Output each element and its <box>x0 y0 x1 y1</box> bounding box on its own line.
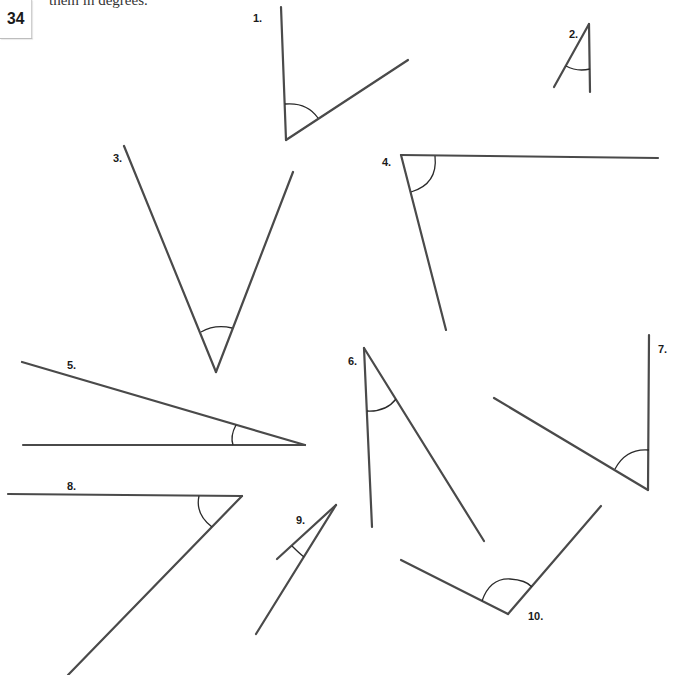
angle-5: 5. <box>22 359 305 445</box>
angle-1-ray-b <box>286 60 408 140</box>
angle-4-arc <box>411 156 435 192</box>
angle-6-ray-a <box>364 348 372 527</box>
angle-4-label: 4. <box>382 156 391 168</box>
angle-8-label: 8. <box>67 480 76 492</box>
angle-6-label: 6. <box>348 355 357 367</box>
angle-10-label: 10. <box>528 610 543 622</box>
angle-1: 1. <box>253 7 408 140</box>
angle-8-arc <box>198 496 212 527</box>
angle-4: 4. <box>382 155 658 330</box>
angle-5-label: 5. <box>67 359 76 371</box>
angle-4-ray-a <box>401 155 658 158</box>
angle-6-arc <box>367 399 396 411</box>
angle-2-arc <box>566 66 590 70</box>
angle-8-ray-b <box>68 496 242 675</box>
angle-10: 10. <box>401 506 601 622</box>
angle-7-ray-b <box>494 398 648 490</box>
angle-7: 7. <box>494 335 667 490</box>
angle-3: 3. <box>113 146 293 372</box>
angle-3-arc <box>201 327 232 332</box>
angle-3-ray-b <box>216 172 293 372</box>
angle-1-ray-a <box>281 7 286 140</box>
angle-8-ray-a <box>8 494 242 496</box>
angle-1-label: 1. <box>253 12 262 24</box>
angle-2: 2. <box>554 24 590 92</box>
angle-7-label: 7. <box>658 343 667 355</box>
angle-2-label: 2. <box>569 28 578 40</box>
angle-10-arc <box>482 579 532 601</box>
angle-4-ray-b <box>401 155 446 330</box>
angle-9-label: 9. <box>296 514 305 526</box>
angle-10-ray-b <box>508 506 601 614</box>
angle-7-arc <box>615 450 649 469</box>
angles-figure: 1. 2. 3. 4. 5. 6. 7. <box>0 0 676 675</box>
angle-3-label: 3. <box>113 152 122 164</box>
angle-6: 6. <box>348 348 484 541</box>
angle-2-ray-b <box>589 24 590 92</box>
angle-8: 8. <box>8 480 242 675</box>
angle-6-ray-b <box>364 348 484 541</box>
angle-1-arc <box>285 104 318 118</box>
angle-5-ray-a <box>22 362 305 445</box>
angle-7-ray-a <box>648 335 649 490</box>
angle-9-arc <box>292 546 304 557</box>
angle-9: 9. <box>256 505 336 634</box>
angle-10-ray-a <box>401 560 508 614</box>
angle-5-arc <box>232 425 236 445</box>
angle-3-ray-a <box>124 146 216 372</box>
